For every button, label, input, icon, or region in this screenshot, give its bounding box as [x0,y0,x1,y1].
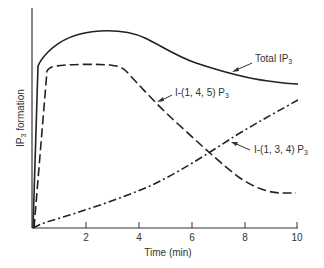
arrowhead-icon [232,67,239,72]
label-total-ip3: Total IP3 [255,53,292,65]
y-axis-title: IP3 formation [15,89,27,147]
series-i134p3 [33,100,298,228]
label-i145p3: I-(1, 4, 5) P3 [175,87,229,99]
x-tick-label: 8 [242,232,248,243]
x-ticks [86,222,297,228]
arrowhead-icon [157,97,164,102]
x-axis-title: Time (min) [144,247,191,258]
x-tick-label: 10 [291,232,303,243]
arrowhead-icon [231,142,238,146]
x-tick-label: 2 [83,232,89,243]
x-tick-label: 6 [189,232,195,243]
ip3-formation-chart: 2 4 6 8 10 Time (min) IP3 formation Tota… [0,0,324,268]
x-tick-label: 4 [136,232,142,243]
label-i134p3: I-(1, 3, 4) P3 [254,144,308,156]
